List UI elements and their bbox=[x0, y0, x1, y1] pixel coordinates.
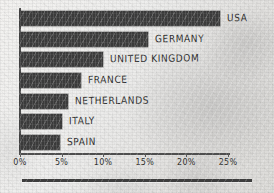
x-axis-tick-label: 20% bbox=[177, 158, 196, 168]
bar-row: NETHERLANDS bbox=[20, 91, 228, 112]
bar bbox=[20, 135, 60, 150]
bar-row: ITALY bbox=[20, 112, 228, 133]
bar-category-label: SPAIN bbox=[67, 137, 96, 147]
x-axis-tick-mark bbox=[62, 153, 63, 157]
bar bbox=[20, 94, 68, 109]
bar-row: UNITED KINGDOM bbox=[20, 49, 228, 70]
bar-chart-figure: USAGERMANYUNITED KINGDOMFRANCENETHERLAND… bbox=[0, 0, 274, 193]
bar-category-label: ITALY bbox=[69, 117, 95, 127]
bars-group: USAGERMANYUNITED KINGDOMFRANCENETHERLAND… bbox=[20, 8, 228, 153]
x-axis-tick-mark bbox=[103, 153, 104, 157]
bar-category-label: UNITED KINGDOM bbox=[110, 54, 199, 65]
bar-category-label: GERMANY bbox=[155, 34, 204, 45]
bar bbox=[20, 11, 220, 26]
bottom-rule-divider bbox=[22, 179, 252, 182]
x-axis-tick-label: 25% bbox=[219, 158, 238, 168]
bar-category-label: NETHERLANDS bbox=[75, 95, 149, 106]
bar-category-label: USA bbox=[227, 13, 248, 23]
bar bbox=[20, 114, 62, 129]
x-axis-tick-label: 15% bbox=[135, 158, 154, 168]
bar-row: SPAIN bbox=[20, 132, 228, 153]
x-axis-tick-label: 10% bbox=[94, 158, 113, 168]
bar-category-label: FRANCE bbox=[88, 75, 128, 85]
bar-row: USA bbox=[20, 8, 228, 29]
x-axis-tick-mark bbox=[145, 153, 146, 157]
x-axis-tick-mark bbox=[186, 153, 187, 157]
x-axis-tick-label: 0% bbox=[13, 158, 26, 168]
x-axis-ticks: 0%5%10%15%20%25% bbox=[20, 153, 232, 173]
x-axis-tick-mark bbox=[228, 153, 229, 157]
bar bbox=[20, 32, 148, 47]
bar bbox=[20, 52, 103, 67]
plot-area: USAGERMANYUNITED KINGDOMFRANCENETHERLAND… bbox=[20, 8, 228, 153]
bar bbox=[20, 73, 81, 88]
bar-row: GERMANY bbox=[20, 29, 228, 50]
x-axis-tick-mark bbox=[20, 153, 21, 157]
x-axis-tick-label: 5% bbox=[55, 158, 68, 168]
bar-row: FRANCE bbox=[20, 70, 228, 91]
